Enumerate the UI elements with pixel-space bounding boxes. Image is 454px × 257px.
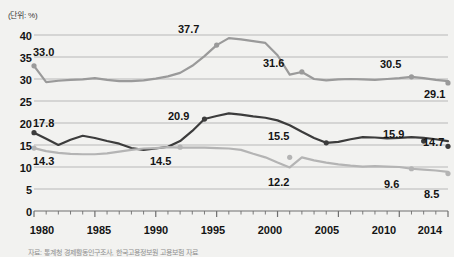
- data-label-14-5: 14.5: [150, 155, 171, 167]
- source-caption: 자료: 통계청 경제활동인구조사, 한국고용정보원 고용보험 자료: [28, 247, 198, 257]
- data-point: [287, 155, 292, 160]
- y-tick-20: 20: [8, 118, 32, 130]
- y-tick-15: 15: [8, 140, 32, 152]
- data-label-29-1: 29.1: [424, 88, 445, 100]
- x-tick-2000: 2000: [247, 224, 293, 236]
- data-point: [31, 63, 36, 68]
- data-label-14-3: 14.3: [33, 155, 54, 167]
- data-point: [214, 43, 219, 48]
- data-label-33-0: 33.0: [33, 46, 54, 58]
- data-point: [299, 69, 304, 74]
- x-tick-1980: 1980: [19, 224, 65, 236]
- data-label-15-5: 15.5: [268, 130, 289, 142]
- y-tick-40: 40: [8, 30, 32, 42]
- x-tick-2010: 2010: [361, 224, 407, 236]
- data-point: [445, 80, 450, 85]
- data-point: [31, 130, 36, 135]
- y-tick-35: 35: [8, 52, 32, 64]
- x-tick-1990: 1990: [133, 224, 179, 236]
- data-label-8-5: 8.5: [424, 188, 439, 200]
- data-label-9-6: 9.6: [384, 178, 399, 190]
- x-tick-2005: 2005: [304, 224, 350, 236]
- y-tick-10: 10: [8, 162, 32, 174]
- y-tick-25: 25: [8, 96, 32, 108]
- series-line-series-bottom: [34, 147, 448, 172]
- data-label-37-7: 37.7: [178, 23, 199, 35]
- data-point: [178, 145, 183, 150]
- data-point: [445, 144, 450, 149]
- x-tick-2014: 2014: [407, 224, 453, 236]
- data-point: [324, 140, 329, 145]
- data-label-20-9: 20.9: [168, 110, 189, 122]
- data-label-30-5: 30.5: [380, 58, 401, 70]
- data-point: [202, 116, 207, 121]
- data-point: [409, 74, 414, 79]
- y-tick-30: 30: [8, 74, 32, 86]
- y-tick-0: 0: [8, 206, 32, 218]
- x-tick-1995: 1995: [190, 224, 236, 236]
- data-point: [445, 171, 450, 176]
- y-tick-5: 5: [8, 184, 32, 196]
- data-label-17-8: 17.8: [33, 117, 54, 129]
- data-label-12-2: 12.2: [268, 176, 289, 188]
- x-tick-1985: 1985: [76, 224, 122, 236]
- data-point: [31, 145, 36, 150]
- data-label-15-9: 15.9: [383, 128, 404, 140]
- data-point: [409, 166, 414, 171]
- data-label-31-6: 31.6: [263, 57, 284, 69]
- data-label-14-7: 14.7: [423, 136, 444, 148]
